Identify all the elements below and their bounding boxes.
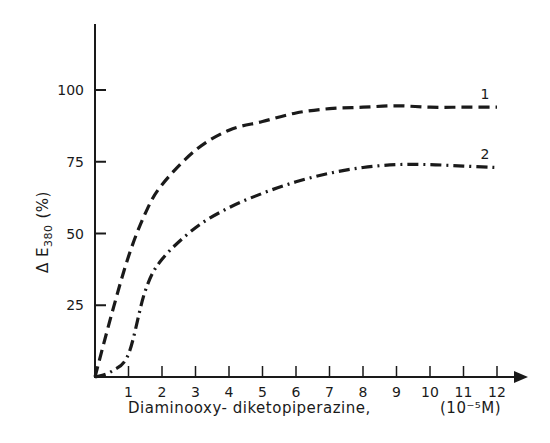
y-axis-unit: (%) (34, 191, 52, 218)
y-axis-title: Δ E380(%) (34, 191, 55, 273)
series-labels: 12 (481, 86, 490, 162)
series-line-1 (95, 106, 497, 377)
x-tick-label: 4 (225, 384, 234, 400)
y-axis: 255075100 (57, 24, 106, 378)
x-tick-label: 3 (191, 384, 200, 400)
x-axis-label: Diaminooxy- diketopiperazine, (128, 399, 371, 417)
x-tick-label: 7 (325, 384, 334, 400)
y-tick-label: 50 (66, 226, 84, 242)
x-tick-label: 5 (258, 384, 267, 400)
x-axis-unit: (10⁻⁵M) (440, 399, 501, 417)
x-tick-label: 8 (359, 384, 368, 400)
x-axis-arrow-icon (514, 371, 528, 383)
y-axis-subscript: 380 (42, 224, 55, 247)
x-tick-label: 10 (421, 384, 439, 400)
x-tick-label: 2 (158, 384, 167, 400)
x-tick-label: 12 (488, 384, 506, 400)
x-axis: 123456789101112 (94, 366, 528, 400)
series-label-2: 2 (481, 146, 490, 162)
chart: 255075100 123456789101112 Δ E380(%) Diam… (0, 0, 550, 443)
y-tick-label: 100 (57, 82, 84, 98)
x-tick-label: 1 (124, 384, 133, 400)
y-tick-label: 25 (66, 297, 84, 313)
x-tick-label: 6 (292, 384, 301, 400)
series-label-1: 1 (481, 86, 490, 102)
x-tick-label: 9 (392, 384, 401, 400)
x-tick-label: 11 (455, 384, 473, 400)
svg-text:Δ E380(%): Δ E380(%) (34, 191, 55, 273)
series-layer (95, 106, 497, 377)
y-tick-label: 75 (66, 154, 84, 170)
y-axis-label: Δ E (34, 247, 52, 273)
